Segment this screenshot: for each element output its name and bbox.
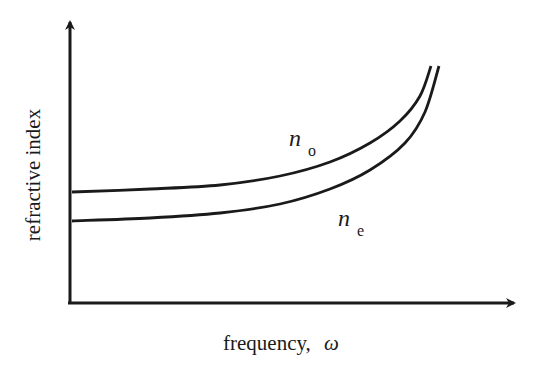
curve-n-o [72, 66, 431, 192]
x-axis-label: frequency, ω [223, 331, 339, 355]
curve-n-e [72, 66, 439, 221]
label-n-e: n e [338, 205, 364, 239]
label-n-o: n o [289, 125, 316, 159]
y-axis-label: refractive index [21, 108, 45, 241]
omega-symbol: ω [324, 331, 339, 355]
dispersion-diagram: refractive index frequency, ω n o n e [0, 0, 534, 369]
